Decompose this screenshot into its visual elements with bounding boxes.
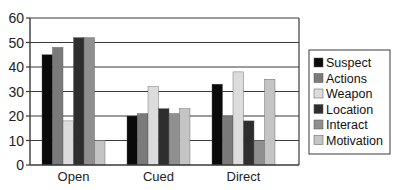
y-axis-ticks: 0102030405060: [8, 10, 30, 173]
legend-swatch: [314, 89, 323, 98]
legend-label: Weapon: [326, 87, 372, 101]
legend: SuspectActionsWeaponLocationInteractMoti…: [309, 50, 390, 154]
x-category-label: Cued: [143, 169, 174, 184]
legend-swatch: [314, 105, 323, 114]
bar-motivation-cued: [180, 109, 191, 165]
bar-motivation-open: [95, 141, 106, 166]
bar-actions-direct: [223, 116, 234, 165]
legend-label: Interact: [326, 118, 368, 132]
bar-suspect-direct: [212, 84, 223, 165]
x-category-label: Open: [58, 169, 90, 184]
legend-label: Actions: [326, 72, 367, 86]
bar-motivation-direct: [265, 79, 276, 165]
bar-suspect-cued: [127, 116, 138, 165]
bar-location-cued: [159, 109, 170, 165]
y-tick-label: 10: [8, 133, 24, 149]
bar-actions-cued: [138, 114, 149, 165]
bar-location-open: [74, 38, 85, 165]
legend-swatch: [314, 58, 323, 67]
legend-label: Motivation: [326, 134, 383, 148]
y-tick-label: 40: [8, 59, 24, 75]
bar-interact-direct: [254, 141, 265, 166]
y-tick-label: 20: [8, 108, 24, 124]
bar-group-open: [42, 38, 105, 165]
y-tick-label: 0: [16, 157, 24, 173]
y-tick-label: 60: [8, 10, 24, 26]
bar-group-direct: [212, 72, 275, 165]
legend-swatch: [314, 120, 323, 129]
bar-weapon-cued: [148, 87, 159, 165]
grouped-bar-chart: 0102030405060 OpenCuedDirect SuspectActi…: [0, 0, 394, 190]
x-category-label: Direct: [227, 169, 261, 184]
y-tick-label: 30: [8, 84, 24, 100]
bar-actions-open: [53, 47, 64, 165]
bar-suspect-open: [42, 55, 53, 165]
legend-swatch: [314, 136, 323, 145]
bar-location-direct: [244, 121, 255, 165]
legend-swatch: [314, 74, 323, 83]
bar-weapon-direct: [233, 72, 244, 165]
bar-weapon-open: [63, 121, 74, 165]
x-axis-category-labels: OpenCuedDirect: [58, 169, 261, 184]
bar-group-cued: [127, 87, 190, 165]
legend-label: Location: [326, 103, 373, 117]
bar-interact-open: [84, 38, 95, 165]
bar-interact-cued: [169, 114, 180, 165]
bars: [42, 38, 275, 165]
y-tick-label: 50: [8, 35, 24, 51]
legend-label: Suspect: [326, 56, 372, 70]
